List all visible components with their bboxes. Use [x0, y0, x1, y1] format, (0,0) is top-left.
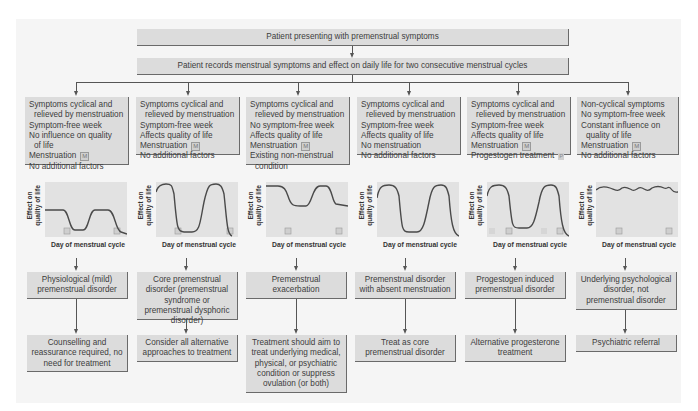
chart-exacerbation: [266, 182, 348, 237]
criteria-line: No additional factors: [140, 151, 237, 161]
diagnosis-box-1: Physiological (mild) premenstrual disord…: [27, 272, 128, 299]
action-text: Counselling and reassurance required, no…: [31, 338, 122, 368]
chart-mild: [45, 182, 127, 237]
criteria-text: Menstruation: [471, 141, 518, 150]
arrow-down-icon: [407, 91, 411, 96]
criteria-line: Existing non-menstrual: [250, 151, 347, 161]
action-text: Consider all alternative approaches to t…: [143, 338, 232, 357]
x-axis-label: Day of menstrual cycle: [602, 241, 676, 248]
criteria-line: No menstruation: [361, 141, 458, 151]
y-axis-label-line: Effect on: [137, 181, 145, 231]
x-axis-label: Day of menstrual cycle: [51, 241, 125, 248]
action-text: Psychiatric referral: [592, 338, 660, 347]
criteria-line: Affects quality of life: [140, 131, 237, 141]
criteria-line: MenstruationM: [581, 141, 676, 151]
y-axis-label: Effect onquality of life: [26, 181, 41, 231]
criteria-line: No influence on quality: [29, 131, 126, 141]
branch-line: [76, 82, 628, 83]
arrow-down-icon: [74, 329, 78, 334]
diagnosis-text: Progestogen induced premenstrual disorde…: [475, 275, 555, 294]
progestogen-marker-icon: P: [558, 153, 564, 160]
menstruation-marker-icon: M: [632, 142, 641, 151]
criteria-line: Symptoms cyclical and: [140, 100, 237, 110]
criteria-line: MenstruationM: [140, 141, 237, 151]
connector: [625, 310, 626, 330]
criteria-line: No additional factors: [361, 151, 458, 161]
y-axis-label-line: Effect on: [26, 181, 34, 231]
criteria-line: condition: [250, 162, 347, 172]
arrow-down-icon: [403, 266, 407, 271]
criteria-line: Symptom-free week: [29, 121, 126, 131]
y-axis-label-line: quality of life: [254, 181, 262, 231]
criteria-line: Symptoms cyclical and: [361, 100, 458, 110]
y-axis-label-line: Effect on: [578, 181, 586, 231]
connector: [296, 299, 297, 330]
arrow-down-icon: [294, 266, 298, 271]
diagnosis-text: Physiological (mild) premenstrual disord…: [37, 275, 117, 294]
diagnosis-box-2: Core premenstrual disorder (premenstrual…: [137, 272, 238, 320]
records-box: Patient records menstrual symptoms and e…: [137, 58, 569, 75]
action-box-6: Psychiatric referral: [576, 335, 677, 352]
arrow-down-icon: [513, 329, 517, 334]
diagnosis-box-3: Premenstrual exacerbation: [246, 272, 347, 299]
criteria-text: Menstruation: [29, 151, 76, 160]
criteria-line: Symptoms cyclical and: [471, 100, 568, 110]
diagnosis-text: Premenstrual exacerbation: [272, 275, 321, 294]
criteria-line: relieved by menstruation: [471, 110, 568, 120]
arrow-down-icon: [184, 266, 188, 271]
criteria-line: No symptom-free week: [581, 110, 676, 120]
arrow-down-icon: [294, 329, 298, 334]
y-axis-label-line: quality of life: [475, 181, 483, 231]
arrow-down-icon: [186, 91, 190, 96]
y-axis-label: Effect onquality of life: [578, 181, 593, 231]
records-text: Patient records menstrual symptoms and e…: [178, 61, 528, 70]
y-axis-label-line: quality of life: [33, 181, 41, 231]
criteria-line: No additional factors: [29, 162, 126, 172]
x-axis-label: Day of menstrual cycle: [162, 241, 236, 248]
diagnosis-box-6: Underlying psychological disorder, not p…: [576, 272, 677, 310]
arrow-down-icon: [296, 91, 300, 96]
action-text: Alternative progesterone treatment: [470, 338, 559, 357]
criteria-line: relieved by menstruation: [361, 110, 458, 120]
diagnosis-text: Underlying psychological disorder, not p…: [581, 275, 672, 305]
y-axis-label-line: Effect on: [247, 181, 255, 231]
y-axis-label-line: Effect on: [358, 181, 366, 231]
chart-core: [156, 182, 238, 237]
arrow-down-icon: [184, 329, 188, 334]
action-text: Treatment should aim to treat underlying…: [251, 338, 340, 388]
criteria-line: Affects quality of life: [471, 131, 568, 141]
y-axis-label: Effect onquality of life: [358, 181, 373, 231]
menstruation-marker-icon: M: [80, 152, 89, 161]
diagnosis-box-4: Premenstrual disorder with absent menstr…: [355, 272, 456, 299]
criteria-box-4: Symptoms cyclical and relieved by menstr…: [357, 97, 461, 155]
criteria-text: Progestogen treatment: [471, 151, 554, 160]
action-box-2: Consider all alternative approaches to t…: [137, 335, 238, 362]
action-box-4: Treat as core premenstrual disorder: [355, 335, 456, 362]
criteria-line: relieved by menstruation: [250, 110, 347, 120]
criteria-box-2: Symptoms cyclical and relieved by menstr…: [136, 97, 240, 155]
criteria-line: Non-cyclical symptoms: [581, 100, 676, 110]
criteria-line: No additional factors: [581, 151, 676, 161]
arrow-down-icon: [516, 91, 520, 96]
criteria-line: MenstruationM: [471, 141, 568, 151]
y-axis-label-line: quality of life: [585, 181, 593, 231]
arrow-down-icon: [623, 329, 627, 334]
criteria-line: MenstruationM: [250, 141, 347, 151]
criteria-box-3: Symptoms cyclical and relieved by menstr…: [246, 97, 350, 165]
arrow-down-icon: [623, 266, 627, 271]
chart-progestogen: [487, 182, 569, 237]
criteria-box-5: Symptoms cyclical and relieved by menstr…: [467, 97, 571, 155]
criteria-line: Symptom-free week: [361, 121, 458, 131]
menstruation-marker-icon: M: [522, 142, 531, 151]
menstruation-marker-icon: M: [191, 142, 200, 151]
y-axis-label: Effect onquality of life: [137, 181, 152, 231]
criteria-line: Progestogen treatmentP: [471, 151, 568, 161]
diagnosis-box-5: Progestogen induced premenstrual disorde…: [465, 272, 566, 299]
criteria-line: of life: [29, 141, 126, 151]
arrow-down-icon: [513, 266, 517, 271]
action-box-1: Counselling and reassurance required, no…: [27, 335, 128, 372]
arrow-down-icon: [74, 91, 78, 96]
arrow-down-icon: [403, 329, 407, 334]
connector: [515, 299, 516, 330]
chart-absent: [377, 182, 459, 237]
